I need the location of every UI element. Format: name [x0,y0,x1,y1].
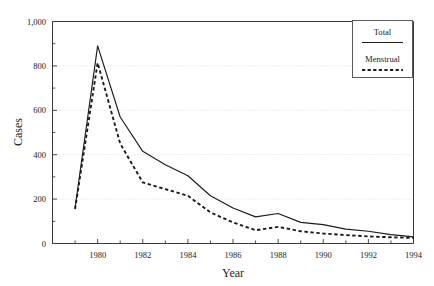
x-tick-marks-group [75,239,413,244]
chart-figure: 02004006008001,000 198019821984198619881… [0,0,434,286]
x-axis-tick-labels: 19801982198419861988199019921994 [89,250,423,260]
y-tick-marks-group [53,22,58,244]
legend-label-total: Total [374,27,392,37]
x-tick-label: 1982 [134,250,151,260]
y-axis-title: Cases [11,118,25,146]
y-tick-label: 1,000 [27,17,46,27]
y-tick-label: 800 [33,61,46,71]
y-axis-tick-labels: 02004006008001,000 [27,17,46,249]
chart-svg: 02004006008001,000 198019821984198619881… [0,0,434,286]
y-tick-label: 600 [33,105,46,115]
x-tick-label: 1994 [405,250,423,260]
series-line-menstrual [75,63,413,238]
x-tick-label: 1980 [89,250,106,260]
gridlines-group [54,66,413,199]
legend-label-menstrual: Menstrual [365,54,400,64]
x-axis-title: Year [222,266,244,280]
y-tick-label: 400 [33,150,46,160]
x-tick-label: 1986 [225,250,242,260]
x-tick-label: 1984 [179,250,197,260]
y-tick-label: 0 [42,239,46,249]
legend[interactable]: Total Menstrual [353,21,413,78]
y-tick-label: 200 [33,194,46,204]
x-tick-label: 1988 [270,250,287,260]
x-tick-label: 1992 [360,250,377,260]
x-tick-label: 1990 [315,250,332,260]
